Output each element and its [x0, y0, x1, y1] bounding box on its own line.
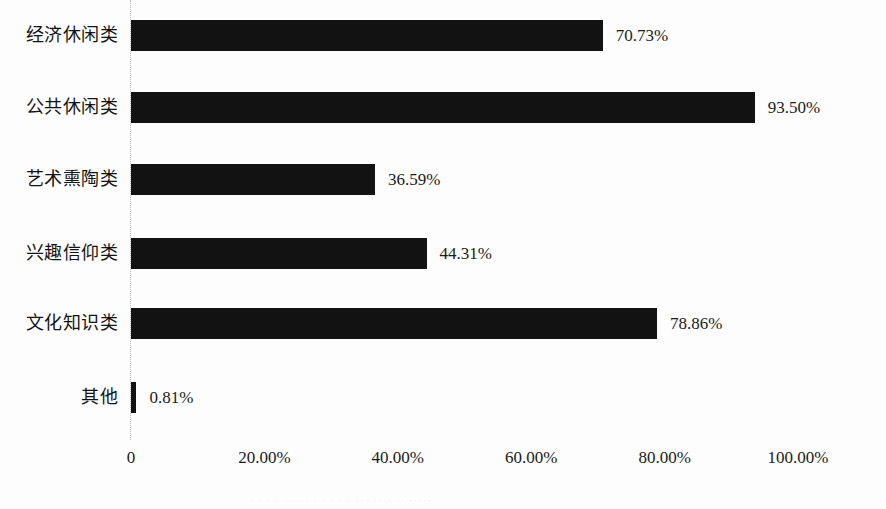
bar	[131, 238, 427, 269]
bar-row: 艺术熏陶类36.59%	[0, 164, 886, 195]
bar-value-label: 44.31%	[440, 238, 492, 269]
category-label: 艺术熏陶类	[0, 164, 118, 195]
bar-row: 其他0.81%	[0, 382, 886, 413]
bar-value-label: 70.73%	[616, 20, 668, 51]
x-axis-tick-label: 0	[127, 446, 136, 470]
category-label: 公共休闲类	[0, 92, 118, 123]
bar-value-label: 93.50%	[768, 92, 820, 123]
x-axis-tick-label: 80.00%	[638, 446, 690, 470]
bar-row: 公共休闲类93.50%	[0, 92, 886, 123]
bar	[131, 20, 603, 51]
plot-area: 经济休闲类70.73%公共休闲类93.50%艺术熏陶类36.59%兴趣信仰类44…	[0, 0, 886, 440]
bar-value-label: 78.86%	[670, 308, 722, 339]
bar-row: 文化知识类78.86%	[0, 308, 886, 339]
bar	[131, 92, 755, 123]
x-axis-tick-label: 60.00%	[505, 446, 557, 470]
bar-row: 兴趣信仰类44.31%	[0, 238, 886, 269]
scan-artifact-text: · · · · · · ·· · · · · · ··· ···· ·· ···…	[250, 494, 720, 507]
y-axis-baseline	[130, 0, 131, 440]
category-label: 经济休闲类	[0, 20, 118, 51]
category-label: 其他	[0, 382, 118, 413]
x-axis-tick-label: 20.00%	[238, 446, 290, 470]
x-axis-tick-label: 40.00%	[372, 446, 424, 470]
bar	[131, 308, 657, 339]
bar-value-label: 36.59%	[388, 164, 440, 195]
bar-value-label: 0.81%	[149, 382, 193, 413]
x-axis-tick-label: 100.00%	[768, 446, 829, 470]
x-axis: 020.00%40.00%60.00%80.00%100.00%	[0, 440, 886, 476]
category-label: 文化知识类	[0, 308, 118, 339]
bar-row: 经济休闲类70.73%	[0, 20, 886, 51]
bar	[131, 382, 136, 413]
category-label: 兴趣信仰类	[0, 238, 118, 269]
bar	[131, 164, 375, 195]
horizontal-bar-chart: 经济休闲类70.73%公共休闲类93.50%艺术熏陶类36.59%兴趣信仰类44…	[0, 0, 886, 509]
